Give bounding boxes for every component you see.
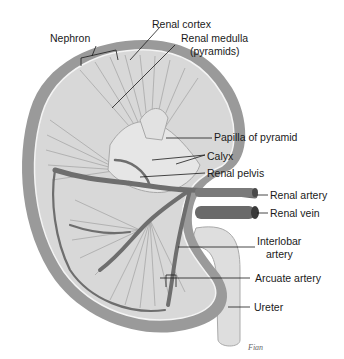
label-renal-medulla-sub: (pyramids)	[190, 45, 240, 57]
label-interlobar-sub: artery	[266, 248, 293, 260]
kidney-illustration: Fian	[0, 0, 344, 359]
label-nephron: Nephron	[50, 32, 90, 44]
label-interlobar: Interlobar	[257, 235, 301, 247]
label-ureter: Ureter	[254, 301, 283, 313]
label-calyx: Calyx	[207, 150, 233, 162]
label-papilla-of-pyramid: Papilla of pyramid	[214, 131, 297, 143]
label-renal-vein: Renal vein	[270, 207, 320, 219]
renal-artery-tube	[195, 188, 258, 197]
label-arcuate-artery: Arcuate artery	[255, 272, 321, 284]
artist-signature: Fian	[247, 343, 263, 352]
label-renal-artery: Renal artery	[270, 189, 327, 201]
renal-vein-tube	[195, 206, 259, 219]
kidney-diagram: Fian Nephron Renal cortex Renal medulla …	[0, 0, 344, 359]
label-renal-medulla: Renal medulla	[181, 32, 248, 44]
label-renal-cortex: Renal cortex	[152, 18, 211, 30]
label-renal-pelvis: Renal pelvis	[207, 167, 264, 179]
